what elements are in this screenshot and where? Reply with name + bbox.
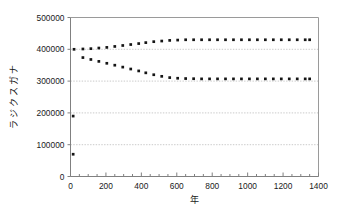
data-point-upper-trajectory — [296, 38, 299, 41]
data-point-lower-trajectory — [256, 78, 259, 81]
data-point-lower-trajectory — [97, 60, 100, 63]
x-tick-label: 600 — [170, 181, 184, 191]
data-point-lower-trajectory — [280, 78, 283, 81]
data-point-upper-trajectory — [121, 44, 124, 47]
data-point-lower-trajectory — [232, 78, 235, 81]
data-point-upper-trajectory — [272, 38, 275, 41]
data-point-upper-trajectory — [216, 38, 219, 41]
data-point-upper-trajectory — [113, 45, 116, 48]
y-axis-label-glyph: ジ — [9, 109, 19, 118]
data-point-upper-trajectory — [82, 48, 85, 51]
y-axis-label-glyph: ク — [9, 98, 19, 107]
data-point-lower-trajectory — [144, 71, 147, 74]
data-point-lower-trajectory — [200, 78, 203, 81]
data-point-initial-points — [72, 115, 75, 118]
data-point-lower-trajectory — [216, 78, 219, 81]
data-point-upper-trajectory — [90, 47, 93, 50]
y-tick-label: 500000 — [37, 13, 65, 23]
data-point-upper-trajectory — [280, 38, 283, 41]
data-point-upper-trajectory — [248, 38, 251, 41]
data-point-upper-trajectory — [208, 38, 211, 41]
x-tick-label: 1400 — [309, 181, 328, 191]
data-point-upper-trajectory — [152, 40, 155, 43]
data-point-upper-trajectory — [192, 38, 195, 41]
data-point-upper-trajectory — [200, 38, 203, 41]
data-point-lower-trajectory — [184, 77, 187, 80]
data-point-lower-trajectory — [168, 76, 171, 79]
y-tick-label: 400000 — [37, 44, 65, 54]
data-point-upper-trajectory — [168, 39, 171, 42]
data-point-lower-trajectory — [308, 78, 311, 81]
y-axis-label-char: ス — [9, 87, 19, 96]
data-point-lower-trajectory — [288, 78, 291, 81]
data-point-lower-trajectory — [137, 70, 140, 73]
x-tick-label: 800 — [205, 181, 219, 191]
x-tick-label: 400 — [134, 181, 148, 191]
y-axis-label-char: ラ — [9, 120, 19, 129]
y-axis-label-char: ジ — [9, 109, 19, 118]
data-point-upper-trajectory — [129, 43, 132, 46]
data-point-lower-trajectory — [90, 58, 93, 61]
data-point-upper-trajectory — [160, 40, 163, 43]
chart-svg: 0100000200000300000400000500000020040060… — [0, 0, 340, 222]
y-axis-label-glyph: ス — [9, 87, 19, 96]
data-point-upper-trajectory — [304, 38, 307, 41]
data-point-lower-trajectory — [304, 78, 307, 81]
data-point-upper-trajectory — [144, 41, 147, 44]
data-point-lower-trajectory — [152, 73, 155, 76]
data-point-lower-trajectory — [240, 78, 243, 81]
data-point-upper-trajectory — [256, 38, 259, 41]
data-point-lower-trajectory — [113, 64, 116, 67]
data-point-lower-trajectory — [272, 78, 275, 81]
y-axis-label-glyph: ガ — [9, 76, 19, 85]
data-point-lower-trajectory — [160, 75, 163, 78]
x-axis-label: 年 — [190, 194, 199, 205]
y-tick-label: 100000 — [37, 140, 65, 150]
data-point-upper-trajectory — [97, 47, 100, 50]
data-point-lower-trajectory — [208, 78, 211, 81]
data-point-lower-trajectory — [82, 56, 85, 59]
data-point-upper-trajectory — [105, 46, 108, 49]
y-axis-label-char: ナ — [9, 65, 19, 74]
y-tick-label: 200000 — [37, 108, 65, 118]
data-point-upper-trajectory — [137, 42, 140, 45]
data-point-upper-trajectory — [232, 38, 235, 41]
data-point-lower-trajectory — [105, 62, 108, 65]
y-axis-label-char: ガ — [9, 76, 19, 85]
data-point-lower-trajectory — [176, 77, 179, 80]
y-axis-label-glyph: ナ — [9, 65, 19, 74]
data-point-lower-trajectory — [129, 68, 132, 71]
data-point-upper-trajectory — [288, 38, 291, 41]
data-point-upper-trajectory — [224, 38, 227, 41]
data-point-lower-trajectory — [121, 66, 124, 69]
data-point-upper-trajectory — [73, 48, 76, 51]
x-tick-label: 1200 — [274, 181, 293, 191]
x-tick-label: 1000 — [238, 181, 257, 191]
data-point-upper-trajectory — [184, 38, 187, 41]
data-point-upper-trajectory — [264, 38, 267, 41]
x-tick-label: 0 — [68, 181, 73, 191]
data-point-lower-trajectory — [264, 78, 267, 81]
data-point-upper-trajectory — [308, 38, 311, 41]
y-axis-label-char: ク — [9, 98, 19, 107]
data-point-upper-trajectory — [176, 39, 179, 42]
chart-figure: 0100000200000300000400000500000020040060… — [0, 0, 340, 222]
data-point-lower-trajectory — [248, 78, 251, 81]
data-point-lower-trajectory — [224, 78, 227, 81]
y-tick-label: 0 — [60, 172, 65, 182]
data-point-lower-trajectory — [192, 77, 195, 80]
data-point-upper-trajectory — [240, 38, 243, 41]
x-tick-label: 200 — [99, 181, 113, 191]
data-point-lower-trajectory — [296, 78, 299, 81]
y-axis-label-glyph: ラ — [9, 120, 19, 129]
y-tick-label: 300000 — [37, 76, 65, 86]
data-point-initial-points — [72, 153, 75, 156]
